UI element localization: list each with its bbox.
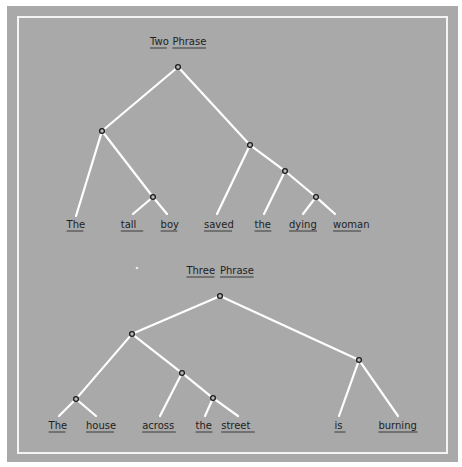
leaf-word: across	[142, 420, 174, 431]
tree-edge	[180, 70, 247, 143]
title-word: Phrase	[220, 265, 254, 276]
tree-edge	[160, 376, 180, 416]
node-circle-icon	[283, 169, 288, 174]
tree-edge	[78, 337, 129, 397]
tree-edge	[216, 400, 238, 416]
title-word: Phrase	[172, 36, 206, 47]
node-circle-icon	[357, 358, 362, 363]
node-circle-icon	[100, 129, 105, 134]
node-circle-icon	[180, 371, 185, 376]
node-circle-icon	[74, 397, 79, 402]
tree-edge	[76, 134, 101, 216]
title-word: Three	[185, 265, 215, 276]
tree-edge	[264, 174, 283, 214]
node-circle-icon	[218, 294, 223, 299]
tree-leaves: Thetallboysavedthedyingwoman	[66, 219, 370, 231]
phrase-structure-diagrams: TwoPhraseThetallboysavedthedyingwomanThr…	[0, 0, 462, 467]
tree-edge	[105, 69, 176, 128]
node-circle-icon	[176, 65, 181, 70]
leaf-word: dying	[289, 219, 317, 230]
tree-edge	[135, 336, 179, 371]
tree-title: TwoPhrase	[149, 36, 206, 48]
trees-container: TwoPhraseThetallboysavedthedyingwomanThr…	[48, 36, 418, 432]
tree-edge	[79, 401, 96, 416]
tree-edge	[303, 200, 314, 214]
leaf-word: The	[66, 219, 86, 230]
node-circle-icon	[248, 143, 253, 148]
title-word: Two	[149, 36, 169, 47]
print-speck	[136, 267, 139, 270]
leaf-word: saved	[204, 219, 234, 230]
leaf-word: the	[196, 420, 212, 431]
leaf-word: is	[334, 420, 342, 431]
tree-edge	[223, 297, 356, 358]
tree-edge	[104, 134, 151, 194]
leaf-word: street	[221, 420, 250, 431]
node-circle-icon	[314, 195, 319, 200]
tree-edge	[361, 363, 398, 416]
tree-edge	[59, 401, 74, 416]
node-circle-icon	[211, 396, 216, 401]
tree-edge	[205, 401, 212, 416]
tree-nodes	[74, 294, 362, 402]
tree-edge	[133, 199, 150, 214]
tree-edge	[185, 375, 211, 396]
tree-edge	[288, 173, 314, 195]
tree-two-phrase: TwoPhraseThetallboysavedthedyingwoman	[66, 36, 370, 231]
leaf-word: The	[48, 420, 68, 431]
leaf-word: burning	[378, 420, 416, 431]
tree-edge	[339, 363, 358, 416]
tree-edge	[135, 297, 217, 332]
leaf-word: tall	[121, 219, 137, 230]
tree-three-phrase: ThreePhraseThehouseacrossthestreetisburn…	[48, 265, 418, 432]
tree-edge	[155, 200, 167, 214]
node-circle-icon	[130, 332, 135, 337]
tree-leaves: Thehouseacrossthestreetisburning	[48, 420, 418, 432]
node-circle-icon	[151, 195, 156, 200]
tree-edges	[76, 69, 335, 216]
tree-edge	[217, 148, 248, 214]
leaf-word: boy	[161, 219, 179, 230]
tree-edge	[319, 199, 335, 214]
leaf-word: woman	[333, 219, 370, 230]
leaf-word: the	[255, 219, 271, 230]
tree-edge	[253, 147, 282, 169]
tree-title: ThreePhrase	[185, 265, 254, 277]
tree-nodes	[100, 65, 319, 200]
leaf-word: house	[86, 420, 116, 431]
tree-edges	[59, 297, 398, 416]
